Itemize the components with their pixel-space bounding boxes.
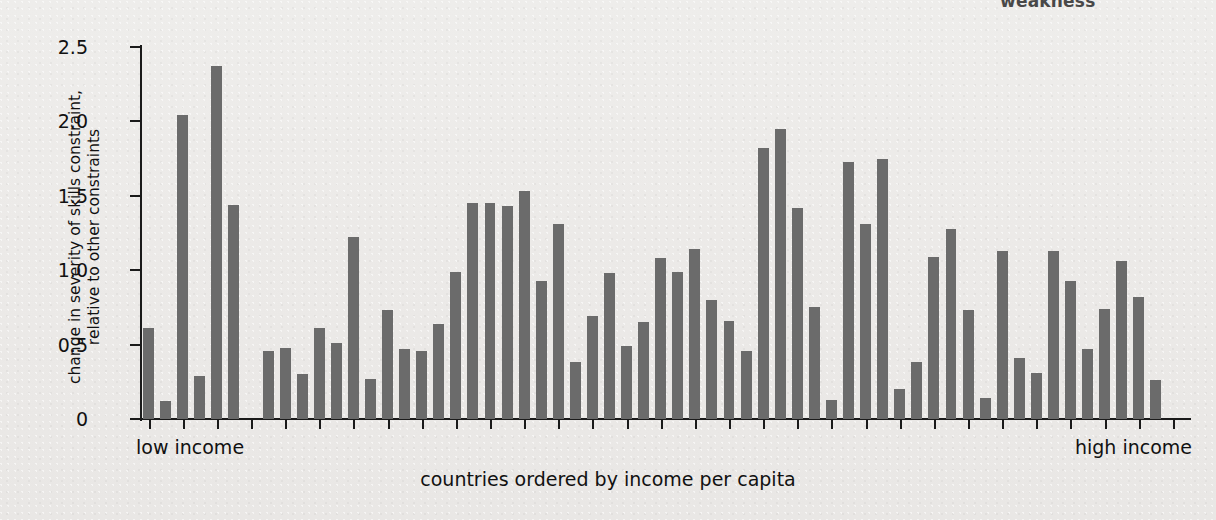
y-axis-tick-mark — [130, 120, 140, 122]
bar — [946, 229, 957, 419]
x-axis-tick-mark — [1036, 420, 1038, 429]
bar — [1048, 251, 1059, 419]
bar — [587, 316, 598, 419]
x-axis-tick-mark — [353, 420, 355, 429]
bar — [211, 66, 222, 419]
bar — [228, 205, 239, 419]
bar — [792, 208, 803, 419]
bar — [433, 324, 444, 419]
bar — [706, 300, 717, 419]
y-axis-tick-mark — [130, 344, 140, 346]
bar — [450, 272, 461, 419]
bar — [1150, 380, 1161, 419]
bar — [348, 237, 359, 419]
bar — [519, 191, 530, 419]
bar — [365, 379, 376, 419]
x-axis-tick-mark — [661, 420, 663, 429]
bar — [502, 206, 513, 419]
bar — [775, 129, 786, 419]
x-axis-tick-mark — [729, 420, 731, 429]
x-axis-tick-mark — [490, 420, 492, 429]
bar — [485, 203, 496, 419]
bar — [928, 257, 939, 419]
bar — [1133, 297, 1144, 419]
y-axis-tick-label: 0.5 — [58, 334, 88, 356]
bar — [194, 376, 205, 419]
bar — [177, 115, 188, 419]
x-axis-tick-mark — [456, 420, 458, 429]
x-axis-tick-mark — [934, 420, 936, 429]
x-axis-tick-mark — [285, 420, 287, 429]
x-axis-tick-mark — [251, 420, 253, 429]
bar — [1099, 309, 1110, 419]
bar — [826, 400, 837, 419]
bar — [638, 322, 649, 419]
bar — [297, 374, 308, 419]
low-income-annotation: low income — [136, 436, 244, 458]
x-axis-tick-mark — [388, 420, 390, 429]
bar — [758, 148, 769, 419]
x-axis-tick-mark — [422, 420, 424, 429]
bar — [672, 272, 683, 419]
bar — [741, 351, 752, 419]
bar — [689, 249, 700, 419]
plot-area — [140, 47, 1190, 419]
bar — [143, 328, 154, 419]
bar — [877, 159, 888, 419]
x-axis-tick-mark — [558, 420, 560, 429]
bar — [416, 351, 427, 419]
bar — [553, 224, 564, 419]
x-axis-tick-mark — [695, 420, 697, 429]
x-axis-tick-mark — [900, 420, 902, 429]
y-axis-tick-mark — [130, 269, 140, 271]
y-axis-tick-label: 0 — [76, 408, 88, 430]
x-axis-tick-mark — [797, 420, 799, 429]
x-axis-tick-mark — [1139, 420, 1141, 429]
bar — [724, 321, 735, 419]
bar — [1065, 281, 1076, 419]
y-axis-tick-label: 2.5 — [58, 36, 88, 58]
bar — [980, 398, 991, 419]
x-axis-tick-mark — [627, 420, 629, 429]
y-axis-tick-label: 1.0 — [58, 259, 88, 281]
x-axis-tick-mark — [831, 420, 833, 429]
bar — [604, 273, 615, 419]
bar — [621, 346, 632, 419]
x-axis-tick-mark — [183, 420, 185, 429]
bar — [160, 401, 171, 419]
bar — [843, 162, 854, 419]
bar — [570, 362, 581, 419]
bar — [399, 349, 410, 419]
bar — [382, 310, 393, 419]
bar — [280, 348, 291, 419]
x-axis-tick-mark — [217, 420, 219, 429]
x-axis-tick-mark — [319, 420, 321, 429]
x-axis-tick-mark — [866, 420, 868, 429]
x-axis-tick-mark — [968, 420, 970, 429]
x-axis-tick-mark — [524, 420, 526, 429]
x-axis-tick-mark — [1002, 420, 1004, 429]
bar — [963, 310, 974, 419]
bar — [997, 251, 1008, 419]
x-axis-tick-mark — [1105, 420, 1107, 429]
bar — [1014, 358, 1025, 419]
x-axis-tick-mark — [1070, 420, 1072, 429]
bar — [655, 258, 666, 419]
bar-chart: change in severity of skills constraint,… — [0, 0, 1216, 520]
x-axis-tick-mark — [763, 420, 765, 429]
x-axis-tick-mark — [1173, 420, 1175, 429]
y-axis-tick-label: 2.0 — [58, 110, 88, 132]
bar — [331, 343, 342, 419]
bar — [536, 281, 547, 419]
bar — [467, 203, 478, 419]
y-axis-tick-label: 1.5 — [58, 185, 88, 207]
bar — [1082, 349, 1093, 419]
y-axis-tick-mark — [130, 418, 140, 420]
bar — [911, 362, 922, 419]
x-axis-title: countries ordered by income per capita — [0, 468, 1216, 490]
bar — [860, 224, 871, 419]
y-axis-tick-mark — [130, 195, 140, 197]
x-axis-tick-mark — [149, 420, 151, 429]
y-axis-tick-mark — [130, 46, 140, 48]
bar — [809, 307, 820, 419]
